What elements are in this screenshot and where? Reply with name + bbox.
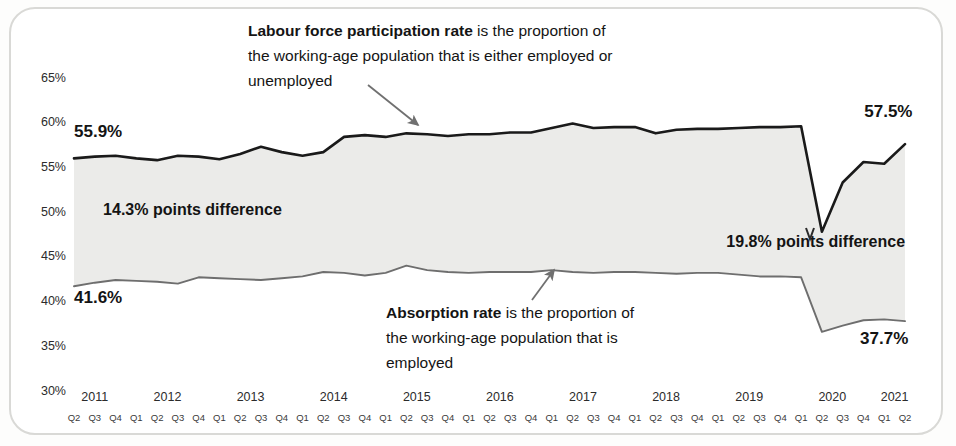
x-axis-quarter-tick: Q4 [691,412,704,423]
x-axis-year-label-2021: 2021 [881,390,909,404]
x-axis-quarter-tick: Q1 [130,412,143,423]
x-axis-quarter-tick: Q3 [255,412,268,423]
x-axis-quarter-tick: Q1 [712,412,725,423]
x-axis-quarter-tick: Q3 [836,412,849,423]
x-axis-quarter-tick: Q4 [857,412,870,423]
x-axis-year-label-2012: 2012 [154,390,182,404]
x-axis-quarter-labels: Q2Q3Q4Q1Q2Q3Q4Q1Q2Q3Q4Q1Q2Q3Q4Q1Q2Q3Q4Q1… [68,412,912,423]
x-axis-quarter-tick: Q1 [629,412,642,423]
absorption-start-label: 41.6% [74,288,122,307]
absorption-annotation-line-3: employed [386,354,453,371]
lfpr-start-label: 55.9% [74,122,122,141]
x-axis-year-label-2019: 2019 [735,390,763,404]
lfpr-annotation-line-3: unemployed [248,72,332,89]
x-axis-quarter-tick: Q4 [192,412,205,423]
x-axis-quarter-tick: Q3 [504,412,517,423]
x-axis-quarter-tick: Q2 [68,412,81,423]
absorption-annotation: Absorption rate is the proportion ofthe … [386,270,635,371]
x-axis-year-label-2014: 2014 [320,390,348,404]
lfpr-end-label: 57.5% [864,102,912,121]
x-axis-year-label-2011: 2011 [81,390,108,404]
x-axis-quarter-tick: Q1 [213,412,226,423]
x-axis-quarter-tick: Q4 [359,412,372,423]
x-axis-quarter-tick: Q4 [442,412,455,423]
x-axis-quarter-tick: Q3 [338,412,351,423]
x-axis-year-label-2017: 2017 [569,390,597,404]
difference-label-end: 19.8% points difference [726,233,905,250]
y-axis-tick-50: 50% [41,205,66,219]
x-axis-quarter-tick: Q3 [421,412,434,423]
labour-force-chart: 65%60%55%50%45%40%35%30% 201120122013201… [0,0,956,446]
x-axis-quarter-tick: Q1 [379,412,392,423]
y-axis-tick-30: 30% [41,384,66,398]
x-axis-quarter-tick: Q2 [234,412,247,423]
x-axis-year-labels: 2011201220132014201520162017201820192020… [81,390,908,404]
x-axis-quarter-tick: Q2 [732,412,745,423]
x-axis-quarter-tick: Q1 [296,412,309,423]
x-axis-quarter-tick: Q2 [899,412,912,423]
x-axis-year-label-2018: 2018 [652,390,680,404]
y-axis-tick-40: 40% [41,294,66,308]
lfpr-annotation-line-2: the working-age population that is eithe… [248,47,612,64]
y-axis-tick-labels: 65%60%55%50%45%40%35%30% [41,71,66,398]
y-axis-tick-45: 45% [41,249,66,263]
x-axis-quarter-tick: Q1 [462,412,475,423]
x-axis-quarter-tick: Q3 [172,412,185,423]
x-axis-year-label-2013: 2013 [237,390,265,404]
absorption-annotation-lead: Absorption rate [386,304,502,321]
y-axis-tick-60: 60% [41,115,66,129]
lfpr-annotation-line-1: Labour force participation rate is the p… [248,22,606,39]
absorption-end-label: 37.7% [860,329,908,348]
x-axis-quarter-tick: Q2 [816,412,829,423]
x-axis-quarter-tick: Q2 [151,412,164,423]
absorption-annotation-line-1: Absorption rate is the proportion of [386,304,635,321]
x-axis-quarter-tick: Q4 [109,412,122,423]
chart-figure: 65%60%55%50%45%40%35%30% 201120122013201… [0,0,956,446]
lfpr-annotation-arrow-icon [368,85,418,125]
absorption-annotation-arrow-icon [532,270,554,300]
absorption-annotation-line-0: is the proportion of [501,304,634,321]
x-axis-quarter-tick: Q2 [317,412,330,423]
absorption-annotation-line-2: the working-age population that is [386,329,618,346]
x-axis-quarter-tick: Q4 [525,412,538,423]
difference-label-start: 14.3% points difference [103,201,282,218]
x-axis-year-label-2016: 2016 [486,390,514,404]
between-lines-fill [74,124,905,332]
y-axis-tick-35: 35% [41,339,66,353]
x-axis-quarter-tick: Q4 [608,412,621,423]
x-axis-year-label-2020: 2020 [818,390,846,404]
x-axis-quarter-tick: Q4 [774,412,787,423]
x-axis-quarter-tick: Q4 [275,412,288,423]
x-axis-quarter-tick: Q3 [753,412,766,423]
lfpr-annotation-line-0: is the proportion of [473,22,606,39]
x-axis-quarter-tick: Q3 [670,412,683,423]
difference-band [74,124,905,332]
x-axis-quarter-tick: Q1 [878,412,891,423]
x-axis-quarter-tick: Q2 [400,412,413,423]
x-axis-quarter-tick: Q2 [483,412,496,423]
lfpr-annotation-lead: Labour force participation rate [248,22,473,39]
lfpr-annotation: Labour force participation rate is the p… [248,22,612,125]
x-axis-quarter-tick: Q3 [88,412,101,423]
x-axis-quarter-tick: Q3 [587,412,600,423]
y-axis-tick-55: 55% [41,160,66,174]
x-axis-year-label-2015: 2015 [403,390,431,404]
x-axis-quarter-tick: Q2 [566,412,579,423]
x-axis-quarter-tick: Q2 [649,412,662,423]
y-axis-tick-65: 65% [41,71,66,85]
x-axis-quarter-tick: Q1 [795,412,808,423]
x-axis-quarter-tick: Q1 [545,412,558,423]
